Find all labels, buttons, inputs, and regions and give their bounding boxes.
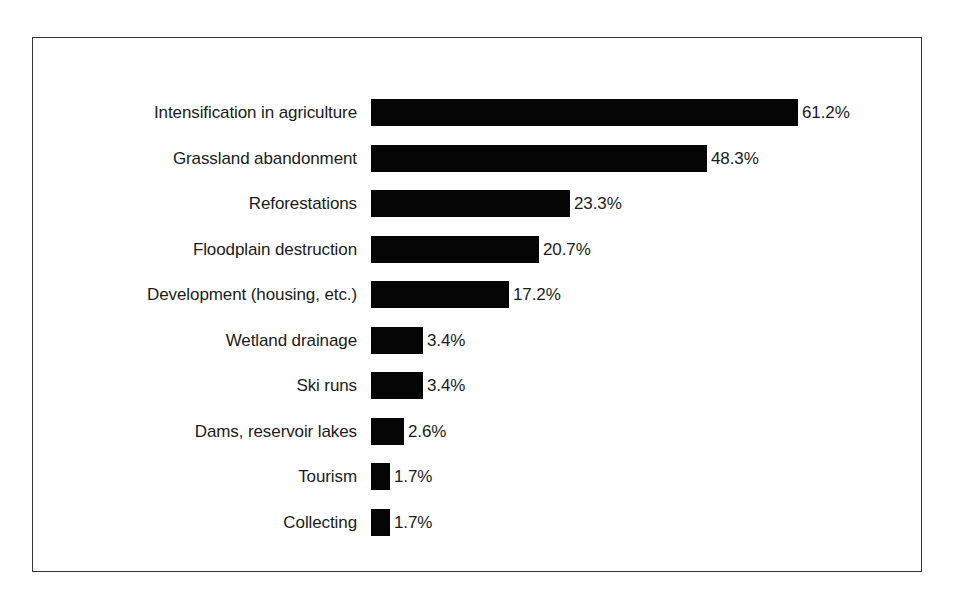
bar [371,327,423,354]
bar-value-label: 61.2% [802,99,850,126]
bar-track: 23.3% [371,190,622,217]
bar-row: Tourism1.7% [33,463,921,490]
bar [371,372,423,399]
bar [371,99,798,126]
bar-row: Grassland abandonment48.3% [33,145,921,172]
bar-row: Development (housing, etc.)17.2% [33,281,921,308]
bar-track: 17.2% [371,281,561,308]
bar-category-label: Reforestations [33,190,365,217]
bar-value-label: 1.7% [394,463,432,490]
bar-track: 1.7% [371,463,432,490]
bar-value-label: 20.7% [543,236,591,263]
bar-category-label: Collecting [33,509,365,536]
bar [371,463,390,490]
bar-track: 20.7% [371,236,591,263]
bar-row: Collecting1.7% [33,509,921,536]
bar-value-label: 17.2% [513,281,561,308]
bar [371,145,707,172]
bar-row: Reforestations23.3% [33,190,921,217]
bar [371,190,570,217]
bar-value-label: 3.4% [427,327,465,354]
bar-category-label: Floodplain destruction [33,236,365,263]
bar [371,236,539,263]
bar-value-label: 48.3% [711,145,759,172]
bar-row: Intensification in agriculture61.2% [33,99,921,126]
bar-track: 2.6% [371,418,446,445]
bar-row: Floodplain destruction20.7% [33,236,921,263]
bar [371,509,390,536]
chart-page: Intensification in agriculture61.2%Grass… [0,0,953,601]
bar-category-label: Intensification in agriculture [33,99,365,126]
bar-value-label: 1.7% [394,509,432,536]
bar-category-label: Tourism [33,463,365,490]
bar [371,281,509,308]
bar-value-label: 23.3% [574,190,622,217]
bar-track: 1.7% [371,509,432,536]
chart-frame: Intensification in agriculture61.2%Grass… [32,37,922,572]
bar-track: 61.2% [371,99,850,126]
bar [371,418,404,445]
bar-value-label: 2.6% [408,418,446,445]
bar-track: 3.4% [371,327,465,354]
bar-row: Wetland drainage3.4% [33,327,921,354]
bar-value-label: 3.4% [427,372,465,399]
bar-category-label: Wetland drainage [33,327,365,354]
plot-area: Intensification in agriculture61.2%Grass… [33,38,921,571]
bar-row: Dams, reservoir lakes2.6% [33,418,921,445]
bar-track: 3.4% [371,372,465,399]
bar-category-label: Ski runs [33,372,365,399]
bar-category-label: Dams, reservoir lakes [33,418,365,445]
bar-track: 48.3% [371,145,759,172]
bar-category-label: Development (housing, etc.) [33,281,365,308]
bar-category-label: Grassland abandonment [33,145,365,172]
bar-row: Ski runs3.4% [33,372,921,399]
